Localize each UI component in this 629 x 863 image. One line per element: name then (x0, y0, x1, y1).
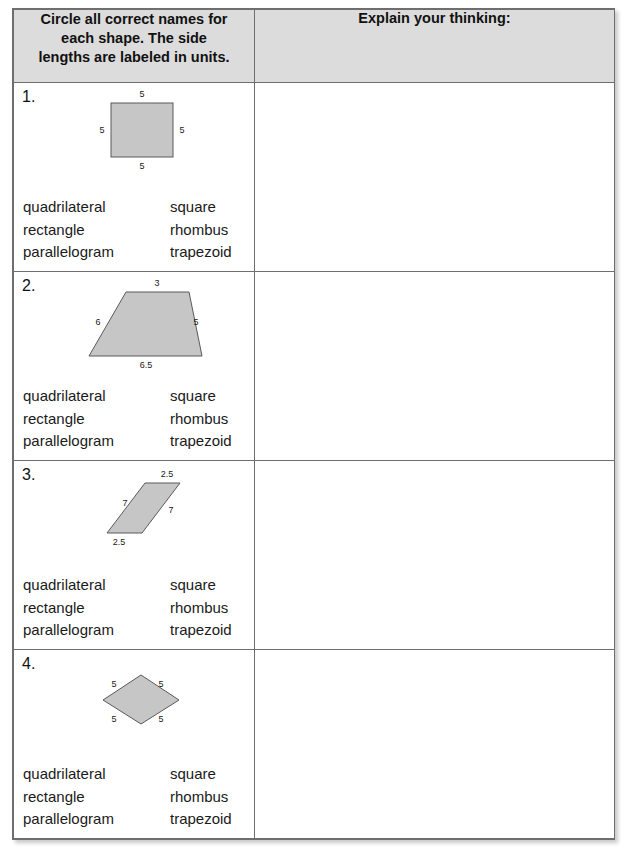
name-options-2: quadrilateral square rectangle rhombus p… (14, 385, 254, 452)
shape-label-bottom: 6.5 (140, 360, 153, 370)
name-options-row: parallelogram trapezoid (23, 241, 246, 263)
worksheet-table: Circle all correct names for each shape.… (13, 9, 615, 839)
name-option-trapezoid[interactable]: trapezoid (170, 808, 246, 830)
name-option-square[interactable]: square (170, 385, 246, 407)
shape-label-left: 5 (99, 125, 104, 135)
name-option-quadrilateral[interactable]: quadrilateral (23, 763, 170, 785)
name-options-4: quadrilateral square rectangle rhombus p… (14, 763, 254, 830)
name-option-quadrilateral[interactable]: quadrilateral (23, 196, 170, 218)
name-options-row: parallelogram trapezoid (23, 430, 246, 452)
name-options-row: quadrilateral square (23, 763, 246, 785)
name-option-parallelogram[interactable]: parallelogram (23, 430, 170, 452)
shape-label-left: 7 (122, 498, 127, 508)
name-option-rectangle[interactable]: rectangle (23, 219, 170, 241)
shape-label-right: 5 (179, 125, 184, 135)
table-row: 4. 5 5 5 5 quadrilateral sq (14, 650, 615, 839)
header-instructions-line-2: each shape. The side (14, 29, 254, 48)
name-options-row: rectangle rhombus (23, 219, 246, 241)
header-instructions: Circle all correct names for each shape.… (14, 10, 255, 83)
header-explain: Explain your thinking: (255, 10, 615, 83)
shape-label-bottom: 2.5 (113, 537, 126, 547)
shape-label-top: 2.5 (161, 469, 174, 479)
shape-label-right: 5 (193, 317, 198, 327)
shape-label-bottom-left: 5 (111, 714, 116, 724)
shape-label-top: 5 (139, 89, 144, 99)
name-option-trapezoid[interactable]: trapezoid (170, 241, 246, 263)
header-instructions-line-3: lengths are labeled in units. (14, 48, 254, 67)
name-option-trapezoid[interactable]: trapezoid (170, 619, 246, 641)
shape-figure-square: 5 5 5 5 (14, 83, 255, 198)
shape-figure-trapezoid: 3 6 5 6.5 (14, 272, 255, 387)
shape-label-left: 6 (95, 317, 100, 327)
name-option-rhombus[interactable]: rhombus (170, 408, 246, 430)
name-option-rectangle[interactable]: rectangle (23, 408, 170, 430)
name-options-3: quadrilateral square rectangle rhombus p… (14, 574, 254, 641)
table-row: 3. 2.5 7 7 2.5 quadrilateral (14, 461, 615, 650)
name-option-square[interactable]: square (170, 763, 246, 785)
worksheet-sheet: Circle all correct names for each shape.… (12, 8, 615, 840)
name-option-rhombus[interactable]: rhombus (170, 597, 246, 619)
name-option-quadrilateral[interactable]: quadrilateral (23, 385, 170, 407)
name-option-square[interactable]: square (170, 196, 246, 218)
table-header-row: Circle all correct names for each shape.… (14, 10, 615, 83)
name-option-trapezoid[interactable]: trapezoid (170, 430, 246, 452)
shape-figure-parallelogram: 2.5 7 7 2.5 (14, 461, 255, 576)
name-option-rhombus[interactable]: rhombus (170, 786, 246, 808)
explanation-area-4[interactable] (255, 650, 615, 839)
name-option-parallelogram[interactable]: parallelogram (23, 619, 170, 641)
shape-figure-rhombus: 5 5 5 5 (14, 650, 255, 765)
name-option-quadrilateral[interactable]: quadrilateral (23, 574, 170, 596)
name-options-row: quadrilateral square (23, 574, 246, 596)
name-options-row: rectangle rhombus (23, 408, 246, 430)
name-options-row: quadrilateral square (23, 196, 246, 218)
name-options-row: parallelogram trapezoid (23, 808, 246, 830)
shape-label-top-right: 5 (158, 679, 163, 689)
name-option-square[interactable]: square (170, 574, 246, 596)
name-option-parallelogram[interactable]: parallelogram (23, 808, 170, 830)
name-option-rhombus[interactable]: rhombus (170, 219, 246, 241)
explanation-area-3[interactable] (255, 461, 615, 650)
problem-cell-1: 1. 5 5 5 5 quadrilateral sq (14, 83, 255, 272)
explanation-area-1[interactable] (255, 83, 615, 272)
name-options-row: rectangle rhombus (23, 786, 246, 808)
explanation-area-2[interactable] (255, 272, 615, 461)
shape-label-right: 7 (168, 505, 173, 515)
table-row: 1. 5 5 5 5 quadrilateral sq (14, 83, 615, 272)
problem-cell-3: 3. 2.5 7 7 2.5 quadrilateral (14, 461, 255, 650)
name-option-rectangle[interactable]: rectangle (23, 786, 170, 808)
problem-cell-4: 4. 5 5 5 5 quadrilateral sq (14, 650, 255, 839)
name-option-parallelogram[interactable]: parallelogram (23, 241, 170, 263)
shape-label-bottom: 5 (139, 161, 144, 171)
shape-label-top: 3 (154, 278, 159, 288)
shape-label-top-left: 5 (111, 679, 116, 689)
name-options-1: quadrilateral square rectangle rhombus p… (14, 196, 254, 263)
name-options-row: quadrilateral square (23, 385, 246, 407)
header-instructions-line-1: Circle all correct names for (14, 10, 254, 29)
name-options-row: rectangle rhombus (23, 597, 246, 619)
name-option-rectangle[interactable]: rectangle (23, 597, 170, 619)
shape-label-bottom-right: 5 (158, 714, 163, 724)
name-options-row: parallelogram trapezoid (23, 619, 246, 641)
problem-cell-2: 2. 3 6 5 6.5 quadrilateral (14, 272, 255, 461)
table-row: 2. 3 6 5 6.5 quadrilateral (14, 272, 615, 461)
